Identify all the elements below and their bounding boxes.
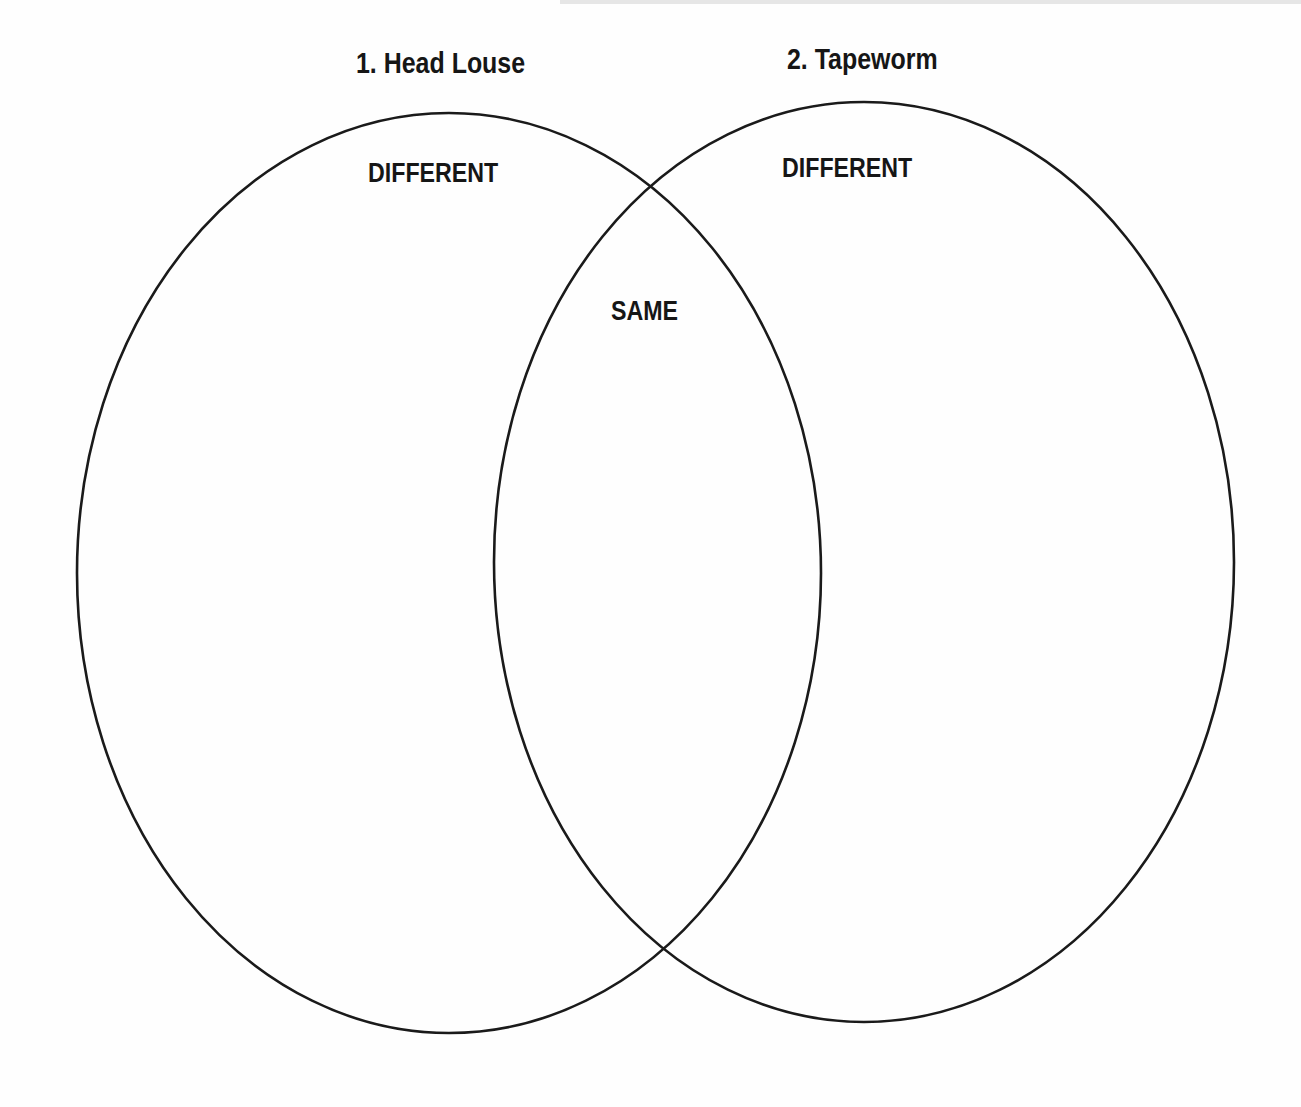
set-1-title: 1. Head Louse (356, 47, 525, 80)
set-2-different-label: DIFFERENT (782, 153, 912, 184)
set-1-different-label: DIFFERENT (368, 158, 498, 189)
venn-worksheet: 1. Head Louse 2. Tapeworm DIFFERENT DIFF… (0, 0, 1301, 1107)
set-1-circle (77, 113, 821, 1033)
set-2-title: 2. Tapeworm (787, 43, 938, 76)
venn-diagram (0, 0, 1301, 1107)
set-2-circle (494, 102, 1234, 1022)
intersection-same-label: SAME (611, 296, 678, 327)
